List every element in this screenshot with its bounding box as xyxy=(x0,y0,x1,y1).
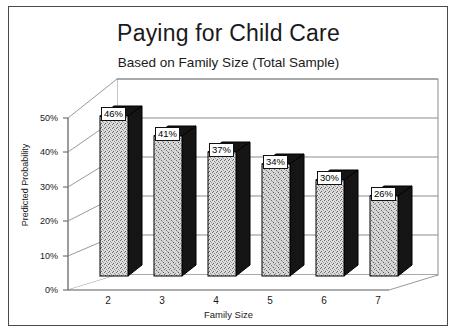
bar-value-label-7: 26% xyxy=(371,187,396,201)
bar-family-size-4 xyxy=(208,142,250,276)
xtick-label-4: 4 xyxy=(204,296,228,306)
chart-image: Paying for Child Care Based on Family Si… xyxy=(0,0,457,335)
bar-value-label-3: 41% xyxy=(155,127,180,141)
xtick-label-6: 6 xyxy=(312,296,336,306)
xtick-label-7: 7 xyxy=(366,296,390,306)
ytick-label-50: 50% xyxy=(24,114,58,123)
xtick-label-2: 2 xyxy=(96,296,120,306)
ytick-label-0: 0% xyxy=(24,286,58,295)
bar-value-label-5: 34% xyxy=(263,155,288,169)
xaxis-title: Family Size xyxy=(0,309,457,320)
bar-family-size-2 xyxy=(100,106,142,276)
bar-value-label-6: 30% xyxy=(317,171,342,185)
bar-value-label-4: 37% xyxy=(209,143,234,157)
floor xyxy=(68,275,438,290)
yaxis-title: Predicted Probability xyxy=(20,130,30,240)
bar-family-size-5 xyxy=(262,154,304,276)
bar-value-label-2: 46% xyxy=(101,107,126,121)
xtick-label-5: 5 xyxy=(258,296,282,306)
bar-family-size-6 xyxy=(316,170,358,276)
plot-area: 50% 40% 30% 20% 10% 0% Predicted Probabi… xyxy=(0,0,457,335)
bar-family-size-3 xyxy=(154,126,196,276)
xtick-label-3: 3 xyxy=(150,296,174,306)
ytick-label-10: 10% xyxy=(24,252,58,261)
chart-svg xyxy=(0,0,457,335)
